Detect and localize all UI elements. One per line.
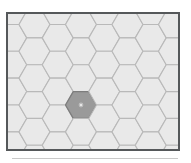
cursor-pointer-icon xyxy=(80,104,82,106)
hex-grid-stage xyxy=(0,0,191,163)
cursor-layer xyxy=(79,103,84,108)
hex-grid-canvas[interactable] xyxy=(6,12,180,151)
bottom-rule xyxy=(12,158,178,159)
hex-layer[interactable] xyxy=(6,12,180,151)
map-frame[interactable] xyxy=(6,12,180,151)
